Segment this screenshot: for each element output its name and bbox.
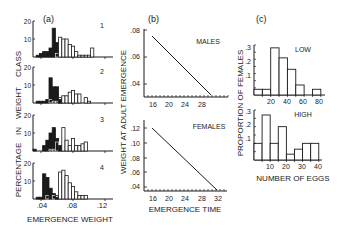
b-females-label: FEMALES [193, 123, 226, 130]
a-ytick: 20 [24, 18, 32, 25]
b-f-ytick-06: .06 [130, 169, 140, 176]
b-f-xtick-32: 32 [214, 195, 222, 202]
c-high-xtick-20: 20 [282, 163, 290, 170]
c-bar [279, 58, 287, 95]
c-high-histogram [254, 110, 322, 162]
b-m-xtick-28: 28 [198, 101, 206, 108]
a-bar-open [78, 55, 81, 57]
a-bar-open [59, 37, 62, 57]
a-subpanel-2: 20102 [24, 64, 113, 106]
b-m-ytick-06: .06 [130, 53, 140, 60]
a-bar-open [59, 172, 62, 199]
a-bar-open [65, 96, 68, 103]
b-males-label: MALES [196, 38, 220, 45]
a-bar-filled [55, 197, 58, 199]
b-m-xtick-20: 20 [165, 101, 173, 108]
a-subpanel-number: 4 [100, 164, 104, 171]
a-bar-open [68, 183, 71, 199]
a-subpanel-4: 20104 [24, 160, 113, 202]
a-ytick: 10 [24, 178, 32, 185]
b-m-xtick-16: 16 [149, 101, 157, 108]
c-bar [303, 143, 311, 160]
b-f-ytick-12: .12 [130, 125, 140, 132]
c-bar [287, 69, 295, 95]
a-bar-filled [39, 197, 42, 199]
a-bar-filled [52, 87, 55, 103]
c-bar [312, 89, 320, 95]
a-ytick: 10 [24, 82, 32, 89]
c-high-label: HIGH [294, 111, 312, 118]
a-ylabel-in: IN [14, 127, 23, 135]
a-bar-open [81, 55, 84, 57]
a-bar-filled [49, 48, 52, 57]
a-bar-filled [43, 52, 46, 57]
a-bar-open [84, 98, 87, 103]
a-bar-filled [46, 140, 49, 151]
a-bar-open [75, 146, 78, 151]
a-bar-open [62, 96, 65, 103]
panel-a-label: (a) [43, 14, 54, 24]
a-bar-filled [33, 149, 36, 151]
a-bar-filled [36, 55, 39, 57]
b-m-ytick-04: .04 [130, 80, 140, 87]
a-bar-open [84, 195, 87, 199]
b-f-xtick-28: 28 [198, 195, 206, 202]
a-ylabel-percentage: PERCENTAGE [14, 143, 23, 198]
a-bar-filled [36, 197, 39, 199]
a-bar-open [78, 146, 81, 151]
c-xlabel: NUMBER OF EGGS [256, 174, 329, 183]
a-bar-filled [39, 101, 42, 103]
c-bar [286, 154, 294, 160]
b-f-ytick-08: .08 [130, 155, 140, 162]
c-bar [270, 143, 278, 160]
a-bar-filled [59, 99, 62, 103]
a-bar-open [71, 46, 74, 57]
panel-c-label: (c) [256, 14, 267, 24]
panel-b-label: (b) [148, 14, 159, 24]
b-f-ytick-10: .10 [130, 140, 140, 147]
a-xlabel: EMERGENCE WEIGHT [27, 215, 113, 224]
c-high-xtick-40: 40 [314, 163, 322, 170]
c-bar [262, 89, 270, 95]
c-high-ytick-1: .1 [245, 135, 251, 142]
b-m-xtick-24: 24 [181, 101, 189, 108]
b-females-line [152, 128, 217, 190]
c-bar [296, 85, 304, 95]
a-subpanel-3: 20103 [24, 112, 113, 154]
a-subpanel-number: 3 [100, 116, 104, 123]
a-ytick: 10 [24, 130, 32, 137]
a-bar-open [75, 192, 78, 199]
a-bar-open [84, 55, 87, 57]
a-xtick-08: .08 [67, 201, 77, 210]
a-ytick: 10 [24, 36, 32, 43]
a-bar-filled [52, 28, 55, 57]
a-bar-open [65, 140, 68, 151]
a-ylabel-weight: WEIGHT [14, 87, 23, 119]
a-bar-open [75, 94, 78, 103]
b-females-plot: FEMALES .12 .10 .08 .06 .04 16 20 24 28 … [130, 120, 227, 214]
b-f-ytick-04: .04 [130, 183, 140, 190]
a-bar-open [84, 142, 87, 151]
a-ytick: 20 [24, 64, 32, 71]
c-ylabel: PROPORTION OF FEMALES [236, 50, 245, 157]
a-bar-filled [46, 99, 49, 103]
a-bar-filled [52, 128, 55, 151]
panel-c-histograms: (c) PROPORTION OF FEMALES LOW .3 .2 .1 2… [236, 14, 330, 183]
a-bar-open [91, 48, 94, 57]
a-bar-open [81, 195, 84, 199]
c-bar [262, 115, 270, 160]
a-subpanel-1: 20101 [24, 18, 113, 60]
a-bar-filled [46, 52, 49, 57]
a-bar-filled [55, 43, 58, 57]
a-ylabel-class: CLASS [14, 51, 23, 77]
a-bar-filled [55, 138, 58, 151]
c-high-ytick-3: .3 [245, 108, 251, 115]
panel-b-line-plots: (b) WEIGHT AT ADULT EMERGENCE MALES .08 … [119, 14, 228, 214]
a-bar-filled [43, 146, 46, 151]
a-bar-open [75, 52, 78, 57]
a-bar-filled [46, 177, 49, 199]
b-f-xtick-16: 16 [149, 195, 157, 202]
c-low-xtick-40: 40 [283, 98, 291, 105]
c-low-xtick-20: 20 [267, 98, 275, 105]
a-ytick: 20 [24, 112, 32, 119]
